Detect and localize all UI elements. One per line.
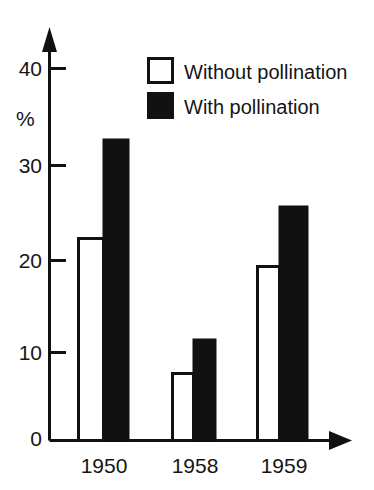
legend-label-without-pollination: Without pollination — [184, 62, 347, 82]
bar-group-1950 — [79, 139, 130, 441]
bar-1959-without-pollination — [258, 267, 280, 441]
y-tick-label-10: 10 — [6, 342, 42, 363]
bar-chart-figure: 40 30 20 10 0 % 1950 1958 1959 Without p… — [0, 0, 374, 490]
legend-label-with-pollination: With pollination — [184, 97, 320, 117]
y-axis-unit-label: % — [16, 108, 35, 129]
bar-1959-with-pollination — [279, 206, 308, 441]
legend-swatch-without-pollination — [147, 57, 174, 84]
y-axis-ticks — [49, 69, 66, 353]
y-tick-label-20: 20 — [6, 250, 42, 271]
bar-1950-without-pollination — [79, 239, 104, 441]
legend-swatch-with-pollination — [147, 92, 174, 119]
x-tick-label-1950: 1950 — [58, 455, 150, 476]
y-tick-label-40: 40 — [6, 58, 42, 79]
bar-group-1958 — [173, 339, 217, 441]
x-tick-label-1958: 1958 — [149, 455, 241, 476]
bar-1958-without-pollination — [173, 374, 194, 441]
y-tick-label-0: 0 — [6, 428, 42, 449]
bar-group-1959 — [258, 206, 309, 441]
y-axis — [42, 27, 57, 441]
bar-1958-with-pollination — [193, 339, 216, 441]
y-tick-label-30: 30 — [6, 155, 42, 176]
x-tick-label-1959: 1959 — [238, 455, 330, 476]
bar-1950-with-pollination — [103, 139, 129, 441]
